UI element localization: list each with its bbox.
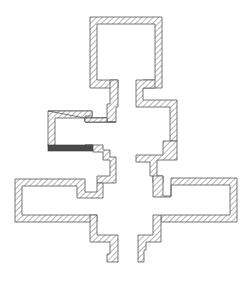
left-lower-leg-wall [90,215,118,262]
right-wing-wall [153,176,237,222]
right-neck-wall [136,80,177,141]
right-lower-leg-wall [138,215,161,262]
solid-bar [48,145,93,151]
top-chamber-wall [90,17,162,88]
floor-plan-diagram [0,0,252,282]
